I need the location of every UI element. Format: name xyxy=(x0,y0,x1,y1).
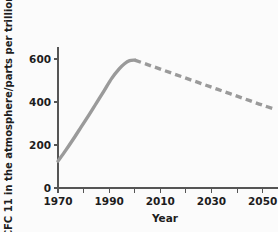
chart-canvas: 020040060019701990201020302050YearCFC 11… xyxy=(0,0,278,232)
y-tick-label: 600 xyxy=(29,53,51,65)
x-tick-label: 1990 xyxy=(95,195,124,207)
y-tick-label: 400 xyxy=(29,96,51,108)
cfc11-line-chart: 020040060019701990201020302050YearCFC 11… xyxy=(0,0,278,232)
series-line-projected xyxy=(135,60,276,109)
x-axis-title: Year xyxy=(151,212,179,224)
y-axis-title: CFC 11 in the atmosphere/parts per trill… xyxy=(3,0,14,232)
y-tick-label: 200 xyxy=(29,139,51,151)
series-line-measured xyxy=(58,60,135,161)
x-tick-label: 1970 xyxy=(43,195,72,207)
y-tick-label: 0 xyxy=(44,182,51,194)
x-tick-label: 2030 xyxy=(197,195,226,207)
x-tick-label: 2010 xyxy=(146,195,175,207)
x-tick-label: 2050 xyxy=(248,195,277,207)
